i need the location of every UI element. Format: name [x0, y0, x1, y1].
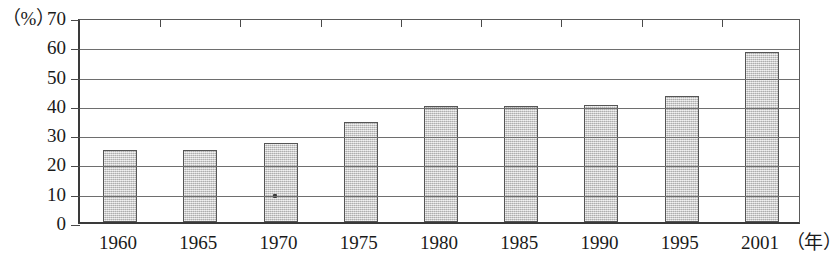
bar-1970	[264, 143, 298, 222]
x-axis-tick-label: 1965	[153, 232, 243, 254]
x-axis-unit-label: （年）	[786, 232, 832, 254]
x-axis-tick-mark	[561, 20, 562, 27]
y-axis-tick-label: 70	[20, 9, 66, 29]
y-axis-tick-mark	[71, 225, 80, 226]
x-axis-tick-mark	[160, 20, 161, 27]
x-axis-tick-label: 1980	[394, 232, 484, 254]
x-axis-tick-mark	[240, 20, 241, 27]
bar-chart: （%） 706050403020100196019651970197519801…	[0, 0, 832, 268]
y-axis-tick-mark	[71, 137, 80, 138]
gridline	[80, 166, 799, 167]
x-axis-tick-label: 1970	[234, 232, 324, 254]
x-axis-tick-label: 1985	[474, 232, 564, 254]
y-axis-tick-mark	[71, 20, 80, 21]
y-axis-tick-mark	[71, 108, 80, 109]
x-axis-tick-mark	[642, 20, 643, 27]
y-axis-tick-label: 30	[20, 126, 66, 146]
x-axis-tick-mark	[481, 20, 482, 27]
x-axis-tick-mark	[401, 20, 402, 27]
bar-1960	[103, 150, 137, 222]
y-axis-tick-mark	[71, 196, 80, 197]
bar-1995	[665, 96, 699, 222]
x-axis-tick-label: 1995	[635, 232, 725, 254]
bar-1990	[584, 105, 618, 222]
y-axis-tick-mark	[71, 79, 80, 80]
y-axis-tick-label: 40	[20, 97, 66, 117]
y-axis-tick-label: 10	[20, 185, 66, 205]
x-axis-tick-label: 1960	[73, 232, 163, 254]
bar-1965	[183, 150, 217, 222]
gridline	[80, 137, 799, 138]
gridline	[80, 49, 799, 50]
y-axis-tick-label: 50	[20, 68, 66, 88]
plot-area	[78, 19, 800, 224]
x-axis-tick-mark	[321, 20, 322, 27]
y-axis-tick-mark	[71, 166, 80, 167]
x-axis-tick-label: 1990	[554, 232, 644, 254]
y-axis-tick-label: 20	[20, 155, 66, 175]
gridline	[80, 196, 799, 197]
bar-1980	[424, 106, 458, 222]
y-axis-tick-mark	[71, 49, 80, 50]
x-axis-tick-label: 1975	[314, 232, 404, 254]
x-axis-tick-mark	[722, 20, 723, 27]
bar-1985	[504, 106, 538, 222]
y-axis-tick-label: 0	[20, 214, 66, 234]
bars-layer	[80, 20, 799, 222]
gridline	[80, 108, 799, 109]
y-axis-tick-label: 60	[20, 38, 66, 58]
gridline	[80, 79, 799, 80]
